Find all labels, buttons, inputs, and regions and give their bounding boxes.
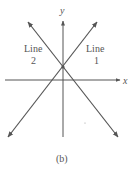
line-2-label-number: 2 [31,55,36,66]
figure-caption: (b) [56,153,68,165]
diagram-canvas: x y Line 2 Line 1 (b) [0,0,128,171]
x-axis-label: x [122,75,128,86]
line-2-label-word: Line [24,43,43,54]
y-axis-label: y [59,5,65,16]
line-1-label-number: 1 [94,55,99,66]
intersection-point [61,65,64,68]
line-1-label-word: Line [86,43,105,54]
stray-dot [84,122,85,123]
